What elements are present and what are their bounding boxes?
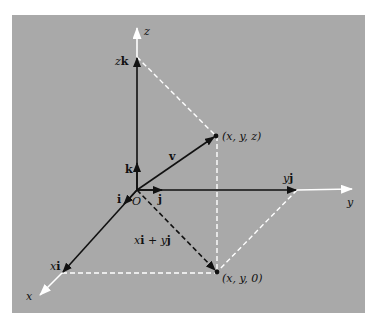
sum-plus: + (144, 234, 160, 247)
yj-unit: j (288, 172, 293, 185)
sum-label: xi + yj (134, 234, 171, 247)
point-xy0-label: (x, y, 0) (222, 272, 263, 285)
zk-unit: k (121, 55, 129, 68)
vector-diagram: z y x zk yj xi k j i O v xi + yj (x, y, … (0, 0, 373, 324)
v-label: v (168, 150, 176, 163)
y-axis (297, 189, 352, 190)
x-axis-label: x (26, 290, 33, 303)
sum-j: j (166, 234, 171, 247)
yj-label: yj (282, 172, 293, 185)
i-label: i (117, 193, 121, 206)
point-xy0 (215, 270, 220, 275)
figure-frame: z y x zk yj xi k j i O v xi + yj (x, y, … (0, 0, 373, 324)
zk-label: zk (114, 55, 129, 68)
j-label: j (157, 193, 162, 206)
k-label: k (125, 163, 133, 176)
y-axis-label: y (346, 196, 354, 209)
point-xyz-label: (x, y, z) (222, 130, 261, 143)
xi-label: xi (50, 260, 60, 273)
origin-label: O (132, 195, 141, 208)
xi-unit: i (56, 260, 60, 273)
z-axis-label: z (143, 25, 150, 38)
point-xyz (214, 134, 219, 139)
background-panel (12, 15, 365, 313)
